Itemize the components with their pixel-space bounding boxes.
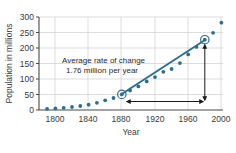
population-growth-chart: 300 250 200 150 100 50 0 1800 1840 1880 … [0, 0, 236, 153]
y-tick-100: 100 [20, 74, 34, 84]
data-point [161, 70, 165, 74]
y-tick-250: 250 [20, 28, 34, 38]
x-tick-1800: 1800 [46, 114, 65, 124]
data-point [145, 80, 149, 84]
y-tick-0: 0 [29, 105, 34, 115]
data-point [195, 45, 199, 49]
data-point [137, 85, 141, 89]
data-point [128, 89, 132, 93]
data-point [78, 104, 82, 108]
chart-canvas: 300 250 200 150 100 50 0 1800 1840 1880 … [0, 0, 236, 153]
data-point [70, 105, 74, 109]
data-point [170, 67, 174, 71]
y-tick-150: 150 [20, 59, 34, 69]
y-axis-tick-labels: 300 250 200 150 100 50 0 [20, 12, 34, 115]
data-point [203, 38, 207, 42]
y-tick-200: 200 [20, 43, 34, 53]
data-point [186, 53, 190, 57]
data-point [178, 61, 182, 65]
data-point [87, 103, 91, 107]
data-point [103, 98, 107, 102]
y-axis-title: Population in millions [4, 24, 14, 104]
rate-of-change-label-line1: Average rate of change [62, 56, 146, 65]
data-point [95, 101, 99, 105]
data-point [153, 75, 157, 79]
data-point [220, 21, 224, 25]
x-tick-1840: 1840 [79, 114, 98, 124]
rate-of-change-label-line2: 1.76 million per year [66, 66, 138, 75]
x-tick-1880: 1880 [112, 114, 131, 124]
data-point [45, 107, 49, 111]
x-tick-1960: 1960 [179, 114, 198, 124]
x-tick-2000: 2000 [212, 114, 231, 124]
data-point [62, 106, 66, 110]
data-point [112, 96, 116, 100]
data-point [120, 93, 124, 97]
data-point [54, 107, 58, 111]
data-point [211, 31, 215, 35]
x-axis-title: Year [122, 127, 139, 137]
y-tick-300: 300 [20, 12, 34, 22]
y-tick-50: 50 [25, 90, 35, 100]
x-axis-tick-labels: 1800 1840 1880 1920 1960 2000 [46, 114, 231, 124]
x-tick-1920: 1920 [146, 114, 165, 124]
